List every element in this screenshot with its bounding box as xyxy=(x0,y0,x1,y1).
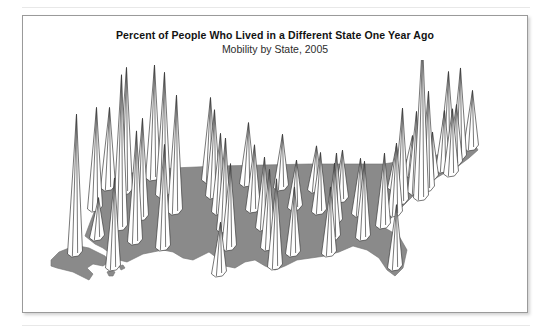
state-spike xyxy=(88,107,103,212)
state-spike xyxy=(68,114,83,257)
figure-card: Percent of People Who Lived in a Differe… xyxy=(22,15,528,313)
figure-title: Percent of People Who Lived in a Differe… xyxy=(23,29,527,42)
page-rule-bottom xyxy=(22,325,530,326)
spike-map-plot xyxy=(23,60,528,312)
spike-map-svg xyxy=(23,60,528,312)
figure-titles: Percent of People Who Lived in a Differe… xyxy=(23,29,527,57)
state-spike xyxy=(274,134,289,191)
state-spike xyxy=(168,95,183,215)
figure-subtitle: Mobility by State, 2005 xyxy=(23,42,527,57)
page-rule-top xyxy=(22,7,530,8)
state-spike xyxy=(101,108,116,191)
